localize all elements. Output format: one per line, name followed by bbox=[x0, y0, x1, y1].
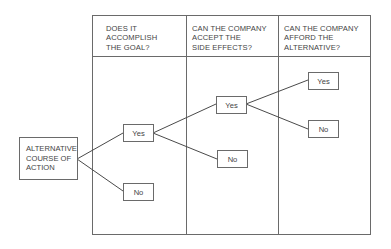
decision-tree-diagram: DOES IT ACCOMPLISH THE GOAL? CAN THE COM… bbox=[0, 0, 391, 249]
afford-no-node: No bbox=[308, 120, 339, 138]
side-effects-no-node: No bbox=[217, 150, 248, 168]
edge-goal-yes-to-side-effects-no bbox=[153, 133, 217, 159]
afford-yes-node: Yes bbox=[308, 72, 339, 90]
edge-side-effects-yes-to-afford-no bbox=[246, 104, 308, 129]
edge-side-effects-yes-to-afford-yes bbox=[246, 80, 308, 104]
edge-root-to-goal-no bbox=[77, 159, 123, 191]
side-effects-yes-node: Yes bbox=[216, 96, 247, 114]
root-node-alternative-course-of-action: ALTERNATIVE COURSE OF ACTION bbox=[19, 137, 78, 180]
root-label-line: ACTION bbox=[26, 163, 77, 173]
edge-goal-yes-to-side-effects-yes bbox=[153, 104, 216, 133]
goal-yes-node: Yes bbox=[123, 124, 154, 142]
root-label-line: ALTERNATIVE bbox=[26, 144, 77, 154]
root-label-line: COURSE OF bbox=[26, 154, 77, 164]
goal-no-node: No bbox=[123, 183, 154, 201]
edge-root-to-goal-yes bbox=[77, 133, 123, 159]
